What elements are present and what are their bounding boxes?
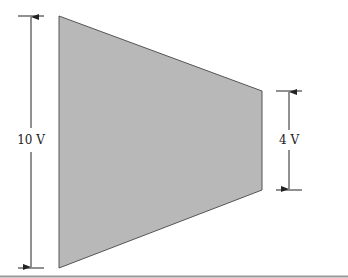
trapezoid-diagram: 10 V 4 V [0, 0, 348, 278]
trapezoid-shape [59, 16, 262, 268]
left-dimension: 10 V [17, 16, 45, 268]
right-dimension: 4 V [276, 91, 302, 190]
right-dimension-label: 4 V [279, 133, 299, 147]
left-dimension-label: 10 V [17, 133, 45, 147]
